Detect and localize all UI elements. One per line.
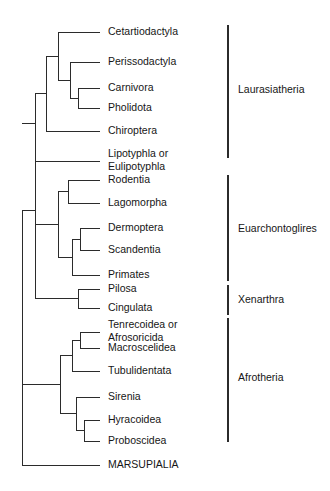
clade-label-layer: LaurasiatheriaEuarchontogliresXenarthraA… xyxy=(238,83,317,383)
taxon-label-pilosa: Pilosa xyxy=(108,282,137,294)
taxon-label-chiroptera: Chiroptera xyxy=(108,124,157,136)
phylogenetic-tree-figure: CetartiodactylaPerissodactylaCarnivoraPh… xyxy=(0,0,330,491)
taxon-label-perissodactyla: Perissodactyla xyxy=(108,55,176,67)
clade-label-euarchontoglires: Euarchontoglires xyxy=(238,222,317,234)
taxon-label-proboscidea: Proboscidea xyxy=(108,434,167,446)
taxon-label-sirenia: Sirenia xyxy=(108,390,141,402)
taxon-label-tenrecoidea: Tenrecoidea orAfrosoricida xyxy=(108,318,178,343)
taxon-label-lipotyphla: Lipotyphla orEulipotyphla xyxy=(108,147,169,172)
taxon-label-cingulata: Cingulata xyxy=(108,301,153,313)
taxon-label-carnivora: Carnivora xyxy=(108,81,154,93)
taxon-label-dermoptera: Dermoptera xyxy=(108,221,164,233)
tree-canvas: CetartiodactylaPerissodactylaCarnivoraPh… xyxy=(0,0,330,491)
taxon-label-rodentia: Rodentia xyxy=(108,173,150,185)
clade-label-xenarthra: Xenarthra xyxy=(238,293,284,305)
taxon-label-lagomorpha: Lagomorpha xyxy=(108,196,167,208)
taxon-label-marsupialia: MARSUPIALIA xyxy=(108,458,179,470)
taxon-label-tubulidentata: Tubulidentata xyxy=(108,364,171,376)
clade-label-laurasiatheria: Laurasiatheria xyxy=(238,83,305,95)
taxon-label-hyracoidea: Hyracoidea xyxy=(108,413,161,425)
taxon-label-layer: CetartiodactylaPerissodactylaCarnivoraPh… xyxy=(108,25,179,470)
branch-layer xyxy=(22,32,100,465)
taxon-label-cetartiodactyla: Cetartiodactyla xyxy=(108,25,178,37)
taxon-label-pholidota: Pholidota xyxy=(108,101,152,113)
taxon-label-primates: Primates xyxy=(108,268,149,280)
taxon-label-scandentia: Scandentia xyxy=(108,243,161,255)
clade-label-afrotheria: Afrotheria xyxy=(238,371,284,383)
taxon-label-macroscelidea: Macroscelidea xyxy=(108,341,176,353)
